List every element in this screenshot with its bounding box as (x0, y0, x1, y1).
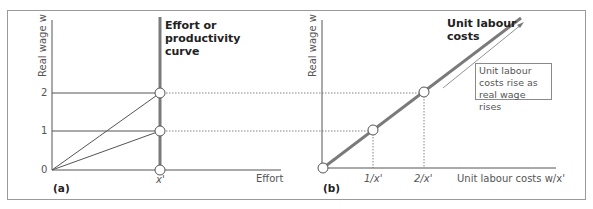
point-b-1 (368, 125, 378, 135)
panel-b-tag: (b) (323, 182, 340, 194)
effort-curve-label-3: curve (165, 45, 199, 58)
rise-note-box: Unit labour costs rise as real wage rise… (475, 63, 552, 100)
effort-curve-label-1: Effort or (165, 19, 216, 32)
y-tick-2: 2 (41, 88, 47, 98)
panel-a-tag: (a) (53, 182, 70, 194)
panel-a-x-label: Effort (256, 174, 283, 184)
ulc-label-2: costs (447, 30, 479, 43)
panel-a-y-label: Real wage w (37, 14, 48, 77)
note-line-3: real wage rises (479, 89, 548, 113)
point-a-w2 (155, 88, 165, 98)
y-tick-0: 0 (41, 165, 47, 175)
x-tick-xprime: x' (156, 175, 165, 185)
x-tick-2x: 2/x' (414, 174, 432, 184)
note-line-2: costs rise as (479, 77, 548, 89)
effort-curve-label-2: productivity (165, 32, 240, 45)
x-tick-1x: 1/x' (364, 174, 382, 184)
y-tick-1: 1 (41, 126, 47, 136)
ray-w1 (52, 131, 160, 170)
point-b-origin (318, 163, 328, 173)
note-line-1: Unit labour (479, 65, 548, 77)
panel-b-y-label: Real wage w (307, 14, 318, 77)
point-b-2 (419, 87, 429, 97)
panel-b-x-label: Unit labour costs w/x' (457, 174, 565, 184)
point-a-w1 (155, 126, 165, 136)
ulc-label-1: Unit labour (447, 17, 517, 30)
